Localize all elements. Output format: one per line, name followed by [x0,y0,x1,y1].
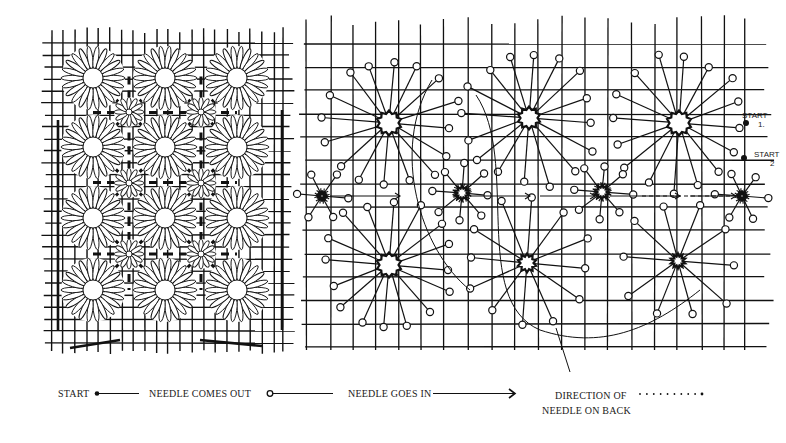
daisy-flower [133,186,197,250]
needle-out-icon [631,217,638,224]
needle-out-icon [445,240,452,247]
small-flower [186,168,216,198]
flower-center [198,180,204,186]
daisy-flower [133,115,197,179]
needle-out-icon [326,92,333,99]
needle-out-icon [726,214,733,221]
needle-out-icon [322,256,329,263]
flower-center [198,251,204,257]
needle-out-icon [521,178,528,185]
needle-out-icon [614,141,621,148]
needle-out-icon [575,206,582,213]
stitch-diagram: START1.START2 START NEEDLE COMES OUT NEE… [0,0,786,443]
needle-out-icon [480,170,487,177]
legend-label-direction-line1: DIRECTION OF [555,390,627,401]
needle-out-icon [576,296,583,303]
small-flower [114,239,144,269]
start-label-number: 2 [770,159,775,168]
star-center-hole [455,186,469,201]
start-label-text: START [754,150,780,159]
flower-center [126,251,132,257]
needle-out-icon [596,216,603,223]
needle-out-icon [616,209,623,216]
needle-out-icon [587,119,594,126]
star-center-hole [737,191,747,202]
needle-out-icon [338,163,345,170]
legend-label-needle-in: NEEDLE GOES IN [348,388,431,399]
daisy-flower [61,186,125,250]
needle-out-icon [601,163,608,170]
needle-out-icon [694,182,701,189]
needle-out-icon [461,159,468,166]
needle-out-icon [621,164,628,171]
legend-label-needle-out: NEEDLE COMES OUT [149,388,251,399]
flower-center [83,280,103,300]
needle-out-icon [645,179,652,186]
small-flower [186,239,216,269]
needle-out-icon [391,59,398,66]
needle-out-icon [730,262,737,269]
needle-out-icon [735,98,742,105]
needle-out-icon [435,75,442,82]
star-center-hole [518,107,540,130]
needle-out-icon [308,171,315,178]
needle-out-icon [572,168,579,175]
needle-out-icon [711,191,718,198]
needle-out-icon [318,114,325,121]
needle-out-icon [445,125,452,132]
flower-center [155,137,175,157]
needle-out-icon [364,203,371,210]
needle-out-icon [473,156,480,163]
needle-out-icon [581,165,588,172]
needle-out-icon [571,186,578,193]
daisy-flower [61,258,125,322]
needle-out-icon [446,288,453,295]
needle-out-icon [631,70,638,77]
flower-center [227,208,247,228]
needle-out-icon [330,213,337,220]
needle-out-icon [655,51,662,58]
needle-out-icon [530,52,537,59]
small-flower [186,97,216,127]
needle-out-icon [507,53,514,60]
needle-out-icon [435,209,442,216]
needle-out-icon [330,282,337,289]
flower-center [227,137,247,157]
needle-out-icon [325,235,332,242]
needle-out-icon [347,69,354,76]
small-flower [114,168,144,198]
needle-out-icon [413,63,420,70]
needle-out-icon [441,168,448,175]
needle-out-icon [589,148,596,155]
needle-out-icon [620,253,627,260]
needle-out-icon [653,310,660,317]
needle-out-icon [728,170,735,177]
needle-out-icon [337,304,344,311]
needle-out-icon [365,63,372,70]
daisy-flower [205,46,269,110]
needle-out-icon [431,171,438,178]
needle-out-icon [406,177,413,184]
legend-label-start: START [58,388,89,399]
needle-out-icon [582,265,589,272]
needle-out-icon [556,55,563,62]
needle-out-icon [487,66,494,73]
flower-center [126,180,132,186]
needle-out-icon [680,53,687,60]
needle-out-icon [765,194,772,201]
needle-out-icon [489,307,496,314]
daisy-flower [133,258,197,322]
star-center-hole [317,191,327,202]
flower-center [227,280,247,300]
star-center-hole [377,253,401,278]
needle-out-icon [722,226,729,233]
needle-out-icon [305,214,312,221]
needle-out-icon [429,187,436,194]
needle-out-icon [610,114,617,121]
start-label-number: 1. [758,120,765,129]
flower-center [198,109,204,115]
start-dot-icon [743,120,749,126]
needle-out-icon [546,183,553,190]
needle-out-icon [729,75,736,82]
needle-out-icon [484,192,491,199]
